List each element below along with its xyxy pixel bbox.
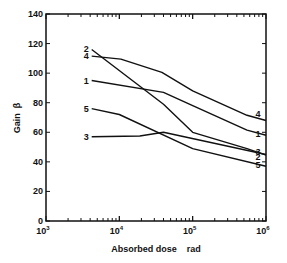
y-tick-label: 20 — [33, 186, 43, 196]
series-label-start-5: 5 — [84, 104, 89, 114]
series-label-end-4: 4 — [255, 109, 260, 119]
series-label-start-1: 1 — [84, 76, 89, 86]
curve-1 — [92, 81, 266, 136]
x-tick-label: 105 — [183, 225, 197, 236]
y-tick-label: 60 — [33, 127, 43, 137]
x-tick-label: 106 — [256, 225, 270, 236]
x-tick-labels: 103104105106 — [36, 225, 270, 236]
y-tick-label: 0 — [38, 216, 43, 226]
chart: 1122334455 020406080100120140 1031041051… — [0, 0, 287, 263]
data-curves — [92, 50, 266, 167]
series-label-end-5: 5 — [255, 160, 260, 170]
curve-5 — [92, 109, 266, 167]
curve-2 — [92, 50, 266, 156]
series-label-end-3: 3 — [255, 147, 260, 157]
x-axis-title: Absorbed dose rad — [111, 244, 201, 254]
x-tick-label: 103 — [36, 225, 50, 236]
axis-ticks — [46, 14, 266, 221]
x-tick-label: 104 — [110, 225, 124, 236]
y-tick-labels: 020406080100120140 — [28, 9, 43, 226]
y-tick-label: 120 — [28, 39, 43, 49]
series-label-start-3: 3 — [84, 132, 89, 142]
y-tick-label: 100 — [28, 68, 43, 78]
y-tick-label: 40 — [33, 157, 43, 167]
curve-3 — [92, 132, 266, 154]
series-label-start-4: 4 — [84, 51, 89, 61]
plot-frame — [46, 14, 266, 221]
y-axis-title: Gain β — [12, 102, 22, 133]
y-tick-label: 140 — [28, 9, 43, 19]
series-label-end-1: 1 — [255, 129, 260, 139]
curve-4 — [92, 56, 266, 120]
y-tick-label: 80 — [33, 98, 43, 108]
